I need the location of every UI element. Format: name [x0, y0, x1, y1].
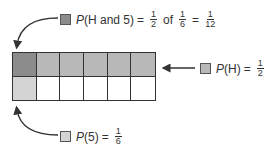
event-text: (H and 5) — [84, 13, 134, 27]
fraction-sixth: 16 — [179, 10, 186, 29]
cell-heads — [84, 53, 108, 77]
fraction-twelfth: 112 — [205, 10, 215, 29]
event-text: (5) — [84, 130, 99, 144]
fraction-half: 12 — [150, 10, 157, 29]
probability-grid — [12, 52, 156, 101]
five-swatch — [60, 131, 71, 142]
joint-probability-label: P (H and 5) = 12 of 16 = 112 — [60, 10, 218, 29]
fraction-sixth: 16 — [115, 127, 122, 146]
five-arrow — [17, 110, 58, 135]
p-symbol: P — [216, 62, 224, 76]
cell-empty — [108, 77, 132, 101]
equals: = — [244, 62, 251, 76]
cell-heads — [60, 53, 84, 77]
five-probability-label: P (5) = 16 — [60, 127, 125, 146]
cell-heads — [108, 53, 132, 77]
cell-empty — [131, 77, 155, 101]
of-text: of — [163, 13, 173, 27]
joint-swatch — [60, 14, 71, 25]
cell-both — [13, 53, 37, 77]
fraction-half: 12 — [257, 59, 264, 78]
cell-empty — [60, 77, 84, 101]
cell-five — [13, 77, 37, 101]
heads-swatch — [200, 63, 211, 74]
event-text: (H) — [224, 62, 241, 76]
p-symbol: P — [76, 130, 84, 144]
cell-heads — [37, 53, 61, 77]
cell-empty — [37, 77, 61, 101]
equals: = — [102, 130, 109, 144]
p-symbol: P — [76, 13, 84, 27]
heads-probability-label: P (H) = 12 — [200, 59, 267, 78]
equals: = — [137, 13, 144, 27]
cell-heads — [131, 53, 155, 77]
joint-arrow — [17, 18, 58, 45]
cell-empty — [84, 77, 108, 101]
equals: = — [192, 13, 199, 27]
